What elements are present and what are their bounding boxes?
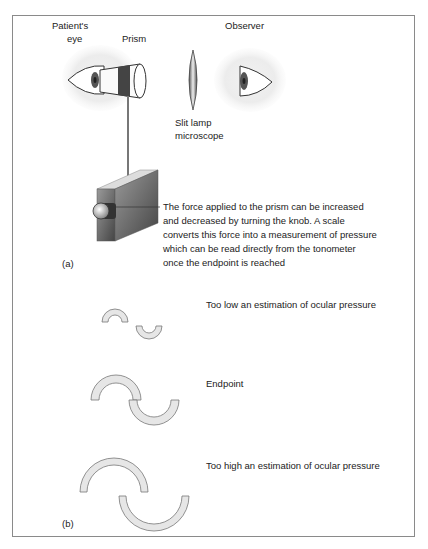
description-line: once the endpoint is reached <box>163 256 393 270</box>
panel-b-tag: (b) <box>62 518 74 530</box>
tonometer-box-icon <box>93 170 160 241</box>
description-line: converts this force into a measurement o… <box>163 228 393 242</box>
endpoint-label: Endpoint <box>206 378 244 390</box>
patients-eye-label-line2: eye <box>67 33 82 45</box>
force-description: The force applied to the prism can be in… <box>163 200 393 270</box>
observer-label: Observer <box>225 20 264 32</box>
semicircles-too-high <box>80 458 189 531</box>
slit-lamp-label-line1: Slit lamp <box>175 117 211 129</box>
semicircles-endpoint <box>91 375 179 425</box>
too-high-label: Too high an estimation of ocular pressur… <box>206 460 380 472</box>
description-line: and decreased by turning the knob. A sca… <box>163 214 393 228</box>
prism-label: Prism <box>122 33 146 45</box>
description-line: which can be read directly from the tono… <box>163 242 393 256</box>
prism-icon <box>100 64 146 182</box>
patients-eye-label-line1: Patient's <box>52 20 88 32</box>
too-low-label: Too low an estimation of ocular pressure <box>206 299 376 311</box>
description-line: The force applied to the prism can be in… <box>163 200 393 214</box>
observer-eye-icon <box>214 48 286 112</box>
slit-lamp-label-line2: microscope <box>175 130 224 142</box>
semicircles-too-low <box>102 309 162 339</box>
panel-a-tag: (a) <box>62 258 74 270</box>
slit-lamp-lens-icon <box>189 50 197 110</box>
